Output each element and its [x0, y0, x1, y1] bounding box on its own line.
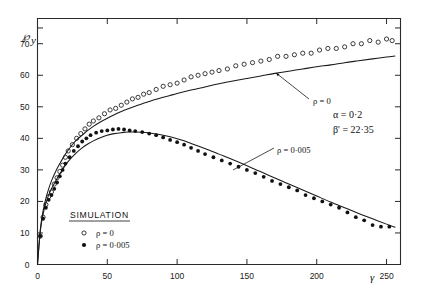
data-point-filled — [379, 225, 383, 229]
data-point-filled — [295, 188, 299, 192]
data-point-filled — [354, 215, 358, 219]
y-tick-label: 60 — [20, 70, 30, 80]
data-point-filled — [72, 149, 76, 153]
data-point-filled — [329, 203, 333, 207]
data-point-filled — [47, 198, 51, 202]
data-point-filled — [89, 133, 93, 137]
data-point-filled — [84, 136, 88, 140]
data-point-filled — [133, 129, 137, 133]
callout-rho-zero: ρ = 0 — [313, 96, 331, 106]
data-point-filled — [154, 133, 158, 137]
data-point-filled — [140, 130, 144, 134]
figure-scatter-plot: 010203040506070 050100150200250 ℘ y γ ρ … — [0, 0, 424, 298]
data-point-filled — [147, 132, 151, 136]
data-point-filled — [38, 234, 42, 238]
y-tick-label: 50 — [20, 102, 30, 112]
y-tick-label: 0 — [25, 260, 30, 270]
data-point-filled — [175, 140, 179, 144]
x-tick-label: 200 — [310, 271, 324, 281]
data-point-filled — [122, 128, 126, 132]
y-tick-label: 40 — [20, 133, 30, 143]
x-tick-label: 50 — [103, 271, 113, 281]
data-point-filled — [270, 179, 274, 183]
data-point-filled — [362, 218, 366, 222]
data-point-filled — [128, 129, 132, 133]
y-axis-title: ℘ — [22, 30, 31, 43]
data-point-filled — [228, 162, 232, 166]
beta-parameter-label: β' = 22·35 — [333, 124, 374, 135]
data-point-filled — [189, 146, 193, 150]
legend-title: SIMULATION — [70, 210, 129, 220]
chart-background — [0, 0, 424, 298]
data-point-filled — [58, 174, 62, 178]
data-point-filled — [196, 149, 200, 153]
data-point-filled — [320, 200, 324, 204]
x-tick-label: 150 — [240, 271, 254, 281]
data-point-filled — [279, 182, 283, 186]
chart-canvas: 010203040506070 050100150200250 ℘ y γ ρ … — [0, 0, 424, 298]
data-point-filled — [68, 155, 72, 159]
data-point-filled — [80, 140, 84, 144]
data-point-filled — [168, 138, 172, 142]
y-tick-label: 10 — [20, 228, 30, 238]
legend-entry-label: ρ = 0·005 — [96, 240, 129, 250]
legend-entry-label: ρ = 0 — [96, 228, 114, 238]
data-point-filled — [111, 128, 115, 132]
data-point-filled — [182, 143, 186, 147]
x-tick-label: 100 — [170, 271, 184, 281]
data-point-filled — [212, 155, 216, 159]
data-point-filled — [105, 129, 109, 133]
x-axis-title: γ — [370, 271, 375, 283]
data-point-filled — [44, 206, 48, 210]
data-point-filled — [371, 223, 375, 227]
data-point-filled — [262, 175, 266, 179]
data-point-filled — [76, 144, 80, 148]
callout-rho-point005: ρ = 0·005 — [277, 145, 310, 155]
y-tick-label: 20 — [20, 196, 30, 206]
data-point-filled — [94, 131, 98, 135]
data-point-filled — [61, 168, 65, 172]
data-point-filled — [50, 193, 54, 197]
data-point-filled — [220, 159, 224, 163]
data-point-filled — [245, 168, 249, 172]
data-point-filled — [52, 187, 56, 191]
data-point-filled — [253, 171, 257, 175]
data-point-filled — [387, 225, 391, 229]
y-axis-title-subscript: y — [30, 34, 36, 46]
y-tick-label: 30 — [20, 165, 30, 175]
data-point-filled — [312, 196, 316, 200]
data-point-filled — [337, 206, 341, 210]
x-tick-label: 0 — [35, 271, 40, 281]
legend-marker-filled — [82, 243, 86, 247]
data-point-filled — [55, 181, 59, 185]
x-tick-label: 250 — [379, 271, 393, 281]
data-point-filled — [117, 127, 121, 131]
data-point-filled — [203, 152, 207, 156]
data-point-filled — [287, 185, 291, 189]
data-point-filled — [41, 217, 45, 221]
data-point-filled — [161, 136, 165, 140]
data-point-filled — [346, 211, 350, 215]
data-point-filled — [100, 129, 104, 133]
data-point-filled — [304, 193, 308, 197]
data-point-filled — [64, 162, 68, 166]
alpha-parameter-label: α = 0·2 — [333, 109, 362, 120]
